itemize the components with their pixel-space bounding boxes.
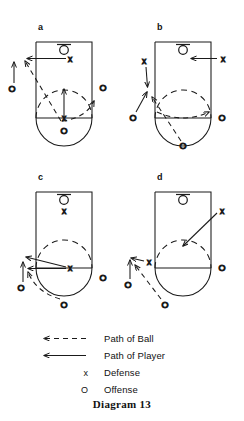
svg-text:O: O <box>99 83 106 93</box>
panel-c-paths <box>23 257 66 299</box>
svg-text:O: O <box>60 126 67 136</box>
svg-text:O: O <box>124 280 131 290</box>
legend-row-path-of-player: Path of Player <box>0 347 244 364</box>
legend-label-offense: Offense <box>88 384 138 395</box>
panel-label-d: d <box>157 172 163 182</box>
svg-text:O: O <box>8 84 15 94</box>
legend-label-path-of-ball: Path of Ball <box>88 333 154 344</box>
legend-label-path-of-player: Path of Player <box>88 350 165 361</box>
svg-text:x: x <box>68 54 73 64</box>
svg-text:O: O <box>218 263 225 273</box>
svg-text:x: x <box>221 54 226 64</box>
svg-text:O: O <box>218 113 225 123</box>
legend-row-path-of-ball: Path of Ball <box>0 330 244 347</box>
legend-row-defense: x Defense <box>0 364 244 381</box>
figure-caption: Diagram 13 <box>0 398 244 410</box>
offense-marker-icon: O <box>0 385 88 395</box>
svg-text:O: O <box>179 141 186 151</box>
panel-label-c: c <box>38 172 43 182</box>
dashed-arrow-icon <box>0 333 88 344</box>
panel-b-court <box>155 42 211 146</box>
panel-label-a: a <box>38 22 43 32</box>
svg-text:O: O <box>129 113 136 123</box>
panel-label-b: b <box>157 22 163 32</box>
panel-a-paths <box>14 59 94 122</box>
offense-symbol: O <box>81 385 88 395</box>
legend-label-defense: Defense <box>88 367 140 378</box>
svg-text:O: O <box>60 300 67 310</box>
legend: Path of Ball Path of Player x Defense O <box>0 330 244 398</box>
svg-text:x: x <box>142 56 147 66</box>
svg-text:x: x <box>62 206 67 216</box>
svg-text:O: O <box>161 300 168 310</box>
solid-arrow-icon <box>0 350 88 361</box>
diagram-sheet: x x O O O <box>0 0 244 421</box>
svg-text:O: O <box>99 273 106 283</box>
svg-text:O: O <box>17 283 24 293</box>
panel-d-court <box>155 192 211 296</box>
legend-row-offense: O Offense <box>0 381 244 398</box>
defense-marker-icon: x <box>0 368 88 378</box>
svg-text:x: x <box>147 257 152 267</box>
svg-text:x: x <box>220 206 225 216</box>
